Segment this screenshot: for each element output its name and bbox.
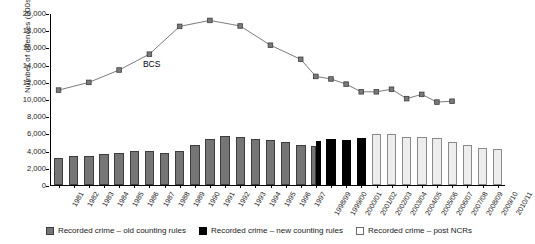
y-axis-tick-label: 8,000 xyxy=(2,113,46,121)
y-axis-tick-mark xyxy=(46,117,49,118)
y-axis-tick-mark xyxy=(46,100,49,101)
x-axis-tick-label: 1991 xyxy=(221,190,237,208)
y-axis-tick-label: 14,000 xyxy=(2,62,46,70)
y-axis-tick-label: 4,000 xyxy=(2,148,46,156)
bcs-data-point xyxy=(374,90,379,95)
x-axis-tick-label: 1987 xyxy=(161,190,177,208)
legend-label: Recorded crime – new counting rules xyxy=(211,226,343,235)
y-axis-tick-label: 0 xyxy=(2,182,46,190)
bcs-data-point xyxy=(268,43,273,48)
y-axis-tick-mark xyxy=(46,134,49,135)
y-axis-tick-mark xyxy=(46,48,49,49)
x-axis-tick-label: 1994 xyxy=(267,190,283,208)
bcs-data-point xyxy=(87,80,92,85)
x-axis-tick-label: 1984 xyxy=(115,190,131,208)
x-axis-labels: 1981198219831984198519861987198819891990… xyxy=(50,188,505,222)
bcs-line-series xyxy=(51,14,505,185)
y-axis-tick-mark xyxy=(46,14,49,15)
bcs-data-point xyxy=(419,92,424,97)
y-axis-tick-mark xyxy=(46,186,49,187)
legend-item: Recorded crime – post NCRs xyxy=(356,226,472,235)
legend-swatch xyxy=(356,227,364,235)
x-axis-tick-label: 1996 xyxy=(297,190,313,208)
bcs-data-point xyxy=(389,87,394,92)
y-axis-tick-label: 12,000 xyxy=(2,79,46,87)
y-axis: Number of offences (000s) 02,0004,0006,0… xyxy=(0,0,46,244)
x-axis-tick-label: 1985 xyxy=(130,190,146,208)
legend-swatch xyxy=(46,227,54,235)
bcs-data-point xyxy=(56,88,61,93)
y-axis-tick-label: 18,000 xyxy=(2,27,46,35)
y-axis-tick-mark xyxy=(46,169,49,170)
bcs-data-point xyxy=(359,90,364,95)
x-axis-tick-label: 1983 xyxy=(100,190,116,208)
legend-item: Recorded crime – old counting rules xyxy=(46,226,186,235)
bcs-data-point xyxy=(298,57,303,62)
bcs-data-point xyxy=(177,24,182,29)
y-axis-tick-label: 16,000 xyxy=(2,44,46,52)
bcs-data-point xyxy=(344,82,349,87)
bcs-data-point xyxy=(208,18,213,23)
y-axis-tick-label: 10,000 xyxy=(2,96,46,104)
y-axis-tick-label: 6,000 xyxy=(2,130,46,138)
legend-item: Recorded crime – new counting rules xyxy=(199,226,343,235)
x-axis-tick-label: 1986 xyxy=(145,190,161,208)
x-axis-tick-label: 1988 xyxy=(176,190,192,208)
y-axis-tick-label: 20,000 xyxy=(2,10,46,18)
x-axis-tick-label: 1990 xyxy=(206,190,222,208)
bcs-data-point xyxy=(238,24,243,29)
legend-label: Recorded crime – post NCRs xyxy=(368,226,472,235)
bcs-data-point xyxy=(450,99,455,104)
bcs-data-point xyxy=(329,77,334,82)
y-axis-tick-label: 2,000 xyxy=(2,165,46,173)
bcs-data-point xyxy=(117,68,122,73)
y-axis-tick-mark xyxy=(46,83,49,84)
bcs-data-point xyxy=(435,100,440,105)
x-axis-tick-label: 1992 xyxy=(236,190,252,208)
x-axis-tick-label: 1995 xyxy=(282,190,298,208)
chart-legend: Recorded crime – old counting rulesRecor… xyxy=(0,226,518,235)
x-axis-tick-label: 1997 xyxy=(312,190,328,208)
x-axis-tick-label: 1993 xyxy=(252,190,268,208)
bcs-data-point xyxy=(147,52,152,57)
x-axis-tick-label: 1981 xyxy=(70,190,86,208)
bcs-series-label: BCS xyxy=(143,59,160,69)
y-axis-tick-mark xyxy=(46,152,49,153)
legend-swatch xyxy=(199,227,207,235)
plot-area xyxy=(50,14,505,186)
x-axis-tick-label: 1982 xyxy=(85,190,101,208)
y-axis-tick-mark xyxy=(46,66,49,67)
y-axis-tick-mark xyxy=(46,31,49,32)
legend-label: Recorded crime – old counting rules xyxy=(58,226,186,235)
bcs-data-point xyxy=(314,74,319,79)
bcs-data-point xyxy=(404,96,409,101)
x-axis-tick-label: 1989 xyxy=(191,190,207,208)
